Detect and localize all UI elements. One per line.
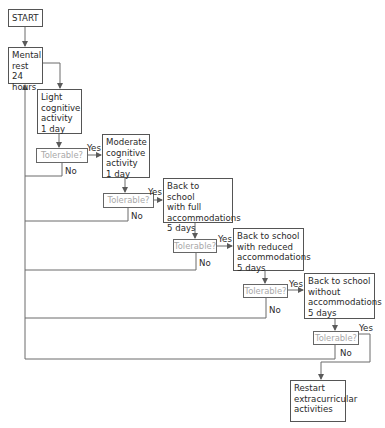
concussion-return-flowchart: START Mental rest 24 hours Light cogniti… (0, 0, 385, 428)
yes-label-4: Yes (289, 279, 303, 289)
step-school-reduced: Back to school with reduced accommodatio… (233, 228, 304, 271)
step-school-full: Back to school with full accommodations … (163, 178, 233, 223)
start-node: START (8, 9, 43, 27)
no-label-3: No (199, 258, 211, 268)
decision-tolerable-1: Tolerable? (36, 148, 88, 163)
step-restart-extracurricular: Restart extracurricular activities (290, 380, 346, 422)
no-label-5: No (340, 348, 352, 358)
step-mental-rest: Mental rest 24 hours (8, 47, 43, 84)
decision-tolerable-5: Tolerable? (313, 331, 359, 345)
no-label-1: No (65, 166, 77, 176)
yes-label-2: Yes (148, 187, 162, 197)
decision-tolerable-3: Tolerable? (173, 239, 217, 253)
yes-label-3: Yes (218, 234, 232, 244)
no-label-2: No (131, 211, 143, 221)
decision-tolerable-4: Tolerable? (243, 284, 288, 298)
decision-tolerable-2: Tolerable? (103, 193, 154, 208)
no-label-4: No (269, 305, 281, 315)
step-light-cognitive: Light cognitive activity 1 day (37, 89, 82, 134)
yes-label-5: Yes (359, 323, 373, 333)
yes-label-1: Yes (87, 143, 101, 153)
step-school-without: Back to school without accommodations 5 … (304, 273, 375, 319)
step-moderate-cognitive: Moderate cognitive activity 1 day (102, 134, 150, 178)
